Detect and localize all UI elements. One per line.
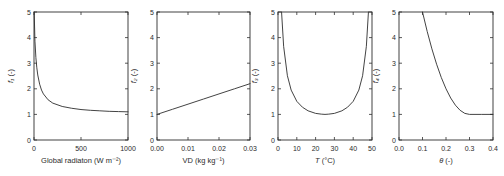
y-tick-label: 5 <box>150 9 154 16</box>
x-axis-label: T (°C) <box>315 156 336 165</box>
y-tick-label: 5 <box>392 9 396 16</box>
data-curve <box>157 84 250 115</box>
x-tick-label: 0.4 <box>488 145 498 152</box>
y-tick-label: 4 <box>271 34 275 41</box>
y-tick-label: 1 <box>27 111 31 118</box>
y-tick-label: 3 <box>271 60 275 67</box>
x-tick-label: 0.01 <box>181 145 195 152</box>
data-curve <box>423 12 494 114</box>
y-tick-label: 2 <box>150 85 154 92</box>
y-axis-label: f₄ (-) <box>371 68 380 83</box>
x-tick-label: 0 <box>32 145 36 152</box>
y-tick-label: 5 <box>27 9 31 16</box>
x-tick-label: 0.1 <box>418 145 428 152</box>
axes-frame <box>399 12 493 140</box>
y-tick-label: 3 <box>27 60 31 67</box>
y-tick-label: 2 <box>271 85 275 92</box>
y-tick-label: 4 <box>392 34 396 41</box>
y-tick-label: 0 <box>271 137 275 144</box>
y-axis-label: f₁ (-) <box>6 68 15 83</box>
y-axis-label: f₂ (-) <box>129 68 138 83</box>
x-tick-label: 30 <box>331 145 339 152</box>
y-tick-label: 1 <box>150 111 154 118</box>
y-tick-label: 0 <box>150 137 154 144</box>
x-tick-label: 10 <box>293 145 301 152</box>
f2-vs-vapour-deficit: 0.000.010.020.03012345VD (kg kg⁻¹)f₂ (-) <box>129 9 257 165</box>
f1-vs-global-radiation: 05001000012345Global radiaton (W m⁻²)f₁ … <box>6 9 136 165</box>
y-tick-label: 3 <box>150 60 154 67</box>
x-tick-label: 0.02 <box>212 145 226 152</box>
y-tick-label: 4 <box>150 34 154 41</box>
y-tick-label: 3 <box>392 60 396 67</box>
y-tick-label: 0 <box>27 137 31 144</box>
x-axis-label: Global radiaton (W m⁻²) <box>41 156 121 165</box>
y-tick-label: 2 <box>392 85 396 92</box>
four-panel-stress-function-figure: 05001000012345Global radiaton (W m⁻²)f₁ … <box>0 0 504 176</box>
y-tick-label: 1 <box>392 111 396 118</box>
x-tick-label: 0.3 <box>465 145 475 152</box>
x-tick-label: 1000 <box>120 145 136 152</box>
axes-frame <box>157 12 250 140</box>
x-tick-label: 0.2 <box>441 145 451 152</box>
y-tick-label: 1 <box>271 111 275 118</box>
figure-canvas: 05001000012345Global radiaton (W m⁻²)f₁ … <box>0 0 504 176</box>
x-tick-label: 40 <box>349 145 357 152</box>
axes-frame <box>278 12 372 140</box>
x-tick-label: 0.03 <box>243 145 257 152</box>
x-tick-label: 0 <box>276 145 280 152</box>
y-tick-label: 2 <box>27 85 31 92</box>
x-axis-label: VD (kg kg⁻¹) <box>183 156 225 165</box>
x-tick-label: 500 <box>75 145 87 152</box>
data-curve <box>34 12 128 112</box>
f4-vs-soil-moisture: 0.00.10.20.30.4012345θ (-)f₄ (-) <box>371 9 498 165</box>
x-tick-label: 0.00 <box>150 145 164 152</box>
f3-vs-temperature: 01020304050012345T (°C)f₃ (-) <box>250 9 376 165</box>
y-tick-label: 0 <box>392 137 396 144</box>
x-axis-label: θ (-) <box>439 156 453 165</box>
x-tick-label: 50 <box>368 145 376 152</box>
x-tick-label: 20 <box>312 145 320 152</box>
y-axis-label: f₃ (-) <box>250 68 259 83</box>
y-tick-label: 4 <box>27 34 31 41</box>
x-tick-label: 0.0 <box>394 145 404 152</box>
data-curve <box>282 12 369 114</box>
y-tick-label: 5 <box>271 9 275 16</box>
axes-frame <box>34 12 128 140</box>
